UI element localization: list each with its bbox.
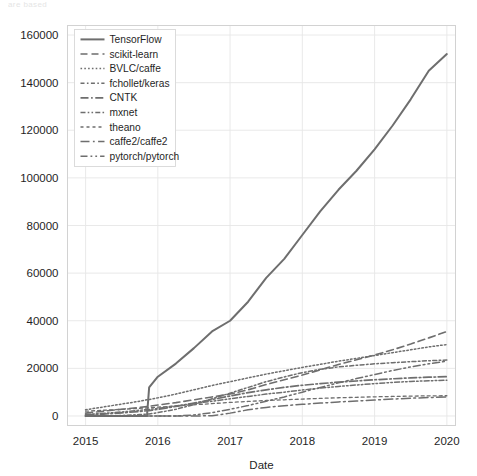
x-axis-title: Date xyxy=(249,459,273,471)
y-tick-label: 80000 xyxy=(27,220,59,232)
y-tick-label: 40000 xyxy=(27,315,59,327)
legend-label: theano xyxy=(110,122,141,133)
chart-figure: are based 020000400006000080000100000120… xyxy=(0,0,477,476)
cropped-header-text: are based xyxy=(8,0,168,9)
legend-label: BVLC/caffe xyxy=(110,63,162,74)
line-chart: 0200004000060000800001000001200001400001… xyxy=(0,0,477,476)
legend-label: CNTK xyxy=(110,92,138,103)
y-axis-tick-labels: 0200004000060000800001000001200001400001… xyxy=(20,29,58,422)
figure-background xyxy=(0,0,477,476)
y-tick-label: 60000 xyxy=(27,267,59,279)
x-tick-label: 2015 xyxy=(73,435,99,447)
legend-label: fchollet/keras xyxy=(110,78,170,89)
legend-label: TensorFlow xyxy=(110,34,163,45)
x-tick-label: 2016 xyxy=(145,435,171,447)
y-tick-label: 100000 xyxy=(20,172,58,184)
legend-label: mxnet xyxy=(110,107,138,118)
x-axis-label: Date xyxy=(249,459,273,471)
y-tick-label: 120000 xyxy=(20,124,58,136)
y-tick-label: 160000 xyxy=(20,29,58,41)
y-tick-label: 140000 xyxy=(20,77,58,89)
x-tick-label: 2017 xyxy=(217,435,243,447)
legend-label: scikit-learn xyxy=(110,49,159,60)
legend-label: caffe2/caffe2 xyxy=(110,136,168,147)
x-tick-label: 2020 xyxy=(434,435,460,447)
legend-label: pytorch/pytorch xyxy=(110,151,180,162)
chart-legend[interactable]: TensorFlowscikit-learnBVLC/caffefchollet… xyxy=(75,30,180,167)
x-tick-label: 2018 xyxy=(290,435,316,447)
x-tick-label: 2019 xyxy=(362,435,388,447)
y-tick-label: 0 xyxy=(52,410,58,422)
y-tick-label: 20000 xyxy=(27,362,59,374)
